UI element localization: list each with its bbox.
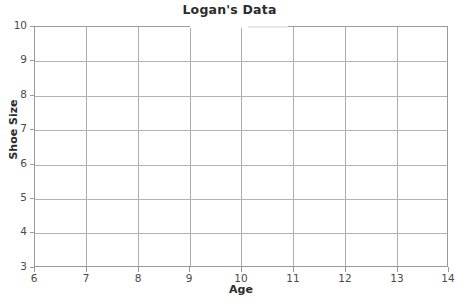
gridline-vertical (138, 27, 139, 266)
y-tick-mark (30, 267, 35, 268)
gridline-horizontal (35, 233, 447, 234)
y-axis-label: Shoe Size (7, 90, 20, 170)
x-axis-label: Age (34, 283, 448, 296)
y-tick-label: 9 (0, 53, 27, 65)
y-tick-mark (30, 26, 35, 27)
gridline-horizontal (35, 96, 447, 97)
gridline-horizontal (35, 130, 447, 131)
plot-area (34, 26, 448, 267)
y-tick-label: 4 (0, 225, 27, 237)
gridline-vertical (86, 27, 87, 266)
y-tick-label: 3 (0, 260, 27, 272)
y-tick-mark (30, 232, 35, 233)
y-tick-mark (30, 95, 35, 96)
gridline-horizontal (35, 61, 447, 62)
gridline-horizontal (35, 165, 447, 166)
gridline-vertical (397, 27, 398, 266)
y-tick-label: 5 (0, 191, 27, 203)
gridline-vertical (293, 27, 294, 266)
chart-container: Logan's Data 6 7 8 9 10 11 12 (0, 0, 459, 300)
y-tick-mark (30, 60, 35, 61)
gridline-vertical (345, 27, 346, 266)
y-tick-mark (30, 129, 35, 130)
gridline-horizontal (35, 199, 447, 200)
y-tick-mark (30, 164, 35, 165)
gridline-vertical (241, 27, 242, 266)
y-tick-label: 10 (0, 19, 27, 31)
scan-artifact (248, 26, 288, 28)
gridline-vertical (190, 27, 191, 266)
scan-artifact (190, 26, 248, 28)
y-tick-mark (30, 198, 35, 199)
chart-title: Logan's Data (0, 2, 459, 17)
